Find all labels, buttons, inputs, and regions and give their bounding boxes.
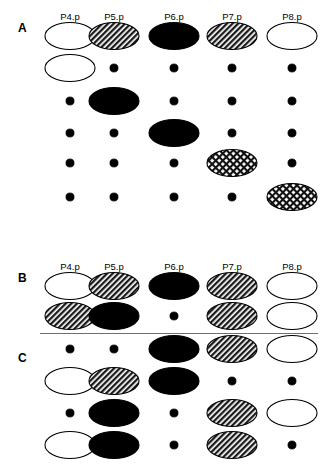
column-header-p5-p: P5.p [104,262,124,272]
column-header-p5-p: P5.p [104,12,124,22]
cell-a-r1-P6p-filled [149,23,199,50]
column-header-p4-p: P4.p [60,262,80,272]
cell-b-r1-P5p-hatched [89,273,139,300]
panel-divider-rule [40,333,318,334]
cell-a-r2-P6p-dot [170,64,178,72]
cell-a-r5-P5p-dot [110,159,118,167]
cell-a-r4-P7p-dot [228,129,236,137]
panel-label-a: A [18,22,27,34]
cell-c-r1-P8p-open [267,336,317,363]
cell-c-r4-P4p-open [45,432,95,459]
cell-a-r1-P8p-open [267,23,317,50]
cell-a-r2-P8p-dot [288,64,296,72]
cell-c-r1-P6p-filled [149,336,199,363]
cell-c-r4-P6p-dot [170,441,178,449]
column-header-p4-p: P4.p [60,12,80,22]
cell-a-r4-P5p-dot [110,129,118,137]
cell-a-r5-P7p-crosshatched [207,150,257,177]
column-header-p7-p: P7.p [222,262,242,272]
panel-label-b: B [18,272,27,284]
cell-b-r2-P7p-hatched [207,303,257,330]
cell-c-r2-P7p-dot [228,377,236,385]
cell-c-r4-P5p-filled [89,432,139,459]
cell-a-r1-P5p-hatched [89,23,139,50]
cell-c-r1-P7p-hatched [207,336,257,363]
cell-a-r2-P4p-open [45,55,95,82]
cell-a-r4-P6p-filled [149,120,199,147]
cell-b-r2-P5p-filled [89,303,139,330]
cell-a-r6-P8p-crosshatched [267,184,317,211]
cell-a-r5-P4p-dot [66,159,74,167]
column-header-p6-p: P6.p [164,262,184,272]
cell-a-r3-P5p-filled [89,88,139,115]
cell-a-r4-P4p-dot [66,129,74,137]
column-header-p6-p: P6.p [164,12,184,22]
cell-b-r1-P4p-open [45,273,95,300]
cell-c-r3-P6p-dot [170,409,178,417]
cell-b-r1-P8p-open [267,273,317,300]
cell-c-r3-P7p-hatched [207,400,257,427]
cell-c-r1-P5p-dot [110,345,118,353]
cell-c-r2-P8p-dot [288,377,296,385]
cell-a-r3-P6p-dot [170,97,178,105]
cell-c-r3-P5p-filled [89,400,139,427]
cell-a-r6-P4p-dot [66,193,74,201]
cell-c-r1-P4p-dot [66,345,74,353]
cell-b-r1-P7p-hatched [207,273,257,300]
cell-c-r2-P5p-hatched [89,368,139,395]
cell-c-r2-P6p-filled [149,368,199,395]
cell-b-r2-P4p-hatched [45,303,95,330]
column-header-p8-p: P8.p [282,262,302,272]
cell-a-r3-P4p-dot [66,97,74,105]
cell-a-r6-P6p-dot [170,193,178,201]
cell-b-r2-P8p-open [267,303,317,330]
cell-c-r2-P4p-open [45,368,95,395]
figure-canvas [0,0,329,465]
cell-c-r3-P8p-open [267,400,317,427]
cell-b-r1-P6p-filled [149,273,199,300]
column-header-p7-p: P7.p [222,12,242,22]
cell-a-r2-P5p-dot [110,64,118,72]
cell-a-r5-P8p-dot [288,159,296,167]
cell-a-r1-P4p-open [45,23,95,50]
column-header-p8-p: P8.p [282,12,302,22]
cell-b-r2-P6p-dot [170,312,178,320]
cell-c-r4-P7p-hatched [207,432,257,459]
cell-a-r5-P6p-dot [170,159,178,167]
cell-a-r1-P7p-hatched [207,23,257,50]
panel-label-c: C [18,352,27,364]
cell-a-r3-P8p-dot [288,97,296,105]
cell-a-r6-P5p-dot [110,193,118,201]
cell-c-r4-P8p-dot [288,441,296,449]
cell-c-r3-P4p-dot [66,409,74,417]
cell-a-r4-P8p-dot [288,129,296,137]
cell-a-r2-P7p-dot [228,64,236,72]
vulval-lineage-figure: AP4.pP5.pP6.pP7.pP8.pBP4.pP5.pP6.pP7.pP8… [0,0,329,465]
cell-a-r3-P7p-dot [228,97,236,105]
cell-a-r6-P7p-dot [228,193,236,201]
